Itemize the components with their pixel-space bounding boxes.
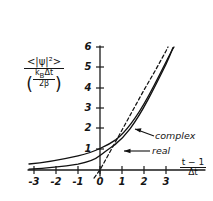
complex-curve-label: complex	[155, 130, 195, 141]
x-tick-label-2: 2	[136, 176, 152, 187]
y-tick-label-4: 4	[82, 82, 94, 93]
y-axis-label-denominator: (kBΔt2β)	[24, 69, 63, 94]
x-tick-label--2: -2	[48, 176, 64, 187]
y-tick-label-1: 1	[82, 143, 94, 154]
y-tick-label-3: 3	[82, 102, 94, 113]
paren-close: )	[55, 73, 62, 93]
denominator-inner-denominator: 2β	[33, 80, 55, 88]
real-curve-label: real	[152, 145, 170, 156]
x-axis-label-denominator: Δt	[180, 168, 207, 177]
asymptote-dashed-curve	[94, 47, 168, 178]
complex-leader	[135, 128, 154, 136]
x-tick-label-0: 0	[92, 176, 108, 187]
figure-root: <|ψ|²> (kBΔt2β) t − 1 Δt -3 -2 -1 0 1 2 …	[0, 0, 213, 201]
denominator-inner-fraction: kBΔt2β	[33, 69, 55, 89]
x-tick-label-3: 3	[158, 176, 174, 187]
y-axis-label: <|ψ|²> (kBΔt2β)	[8, 57, 80, 93]
x-tick-label--3: -3	[26, 176, 42, 187]
real-leader	[124, 149, 150, 153]
y-tick-label-2: 2	[82, 122, 94, 133]
delta-t-numerator: Δt	[44, 68, 53, 77]
x-axis-label: t − 1 Δt	[176, 158, 210, 178]
x-tick-label--1: -1	[70, 176, 86, 187]
x-axis-label-fraction: t − 1 Δt	[180, 158, 207, 178]
y-axis-label-fraction: <|ψ|²> (kBΔt2β)	[24, 57, 63, 93]
x-tick-label-1: 1	[114, 176, 130, 187]
y-tick-label-5: 5	[82, 61, 94, 72]
paren-open: (	[26, 73, 33, 93]
y-tick-label-6: 6	[82, 41, 94, 52]
